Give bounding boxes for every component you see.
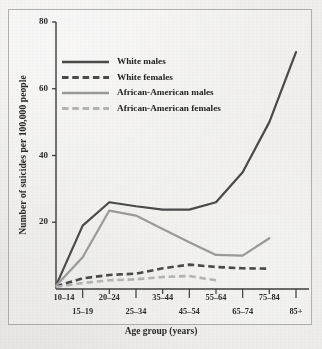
chart-series xyxy=(56,52,296,287)
legend-swatches xyxy=(62,62,109,109)
chart-axes xyxy=(52,22,309,298)
line-chart-plot xyxy=(0,0,322,349)
